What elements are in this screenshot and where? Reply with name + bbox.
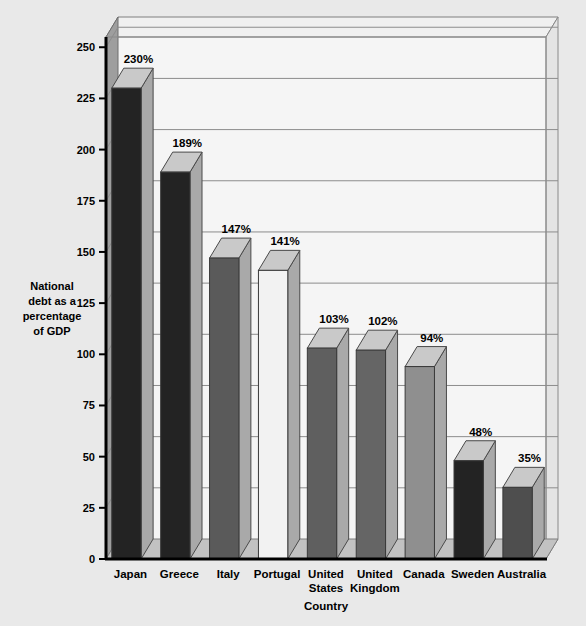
bar <box>405 347 446 559</box>
y-tick-label: 25 <box>83 502 95 514</box>
x-category-label: Greece <box>160 568 199 580</box>
bar-value-label: 189% <box>173 137 202 149</box>
bar <box>161 152 202 559</box>
x-category-label: United <box>308 568 344 580</box>
bar-value-label: 35% <box>518 452 541 464</box>
x-category-label: Canada <box>403 568 445 580</box>
bar <box>112 68 153 559</box>
y-tick-label: 225 <box>77 92 95 104</box>
y-tick-label: 0 <box>89 553 95 565</box>
y-axis-title-line: National <box>30 280 73 292</box>
bar-value-label: 230% <box>124 53 153 65</box>
y-axis-tick-labels: 0255075100125150175200225250 <box>77 41 95 565</box>
bar <box>210 238 251 559</box>
chart-container: CAN UNCLE SAM GO BANKRUPT Americans are … <box>0 0 586 626</box>
bar <box>258 250 299 559</box>
x-axis-category-labels: JapanGreeceItalyPortugalUnitedStatesUnit… <box>114 568 547 594</box>
x-category-label: United <box>357 568 393 580</box>
y-tick-label: 50 <box>83 451 95 463</box>
bar-value-label: 103% <box>319 313 348 325</box>
y-tick-label: 200 <box>77 144 95 156</box>
x-category-label: Portugal <box>254 568 301 580</box>
y-tick-label: 150 <box>77 246 95 258</box>
bar <box>307 328 348 559</box>
bar-value-label: 94% <box>420 332 443 344</box>
y-tick-label: 125 <box>77 297 95 309</box>
bar-value-label: 147% <box>222 223 251 235</box>
bar <box>503 467 544 559</box>
y-axis-title-line: of GDP <box>33 325 70 337</box>
bar-value-label: 48% <box>469 426 492 438</box>
y-tick-label: 175 <box>77 195 95 207</box>
x-category-label: Kingdom <box>350 582 400 594</box>
bar <box>356 330 397 559</box>
y-axis-title-line: percentage <box>23 310 82 322</box>
bar <box>454 441 495 559</box>
x-category-label: Australia <box>497 568 547 580</box>
bar-chart-3d: 0255075100125150175200225250 230%189%147… <box>0 0 586 626</box>
bar-value-label: 102% <box>368 315 397 327</box>
bar-value-label: 141% <box>270 235 299 247</box>
x-category-label: Sweden <box>451 568 494 580</box>
x-axis-title: Country <box>304 600 349 612</box>
y-tick-label: 100 <box>77 348 95 360</box>
x-category-label: Japan <box>114 568 147 580</box>
y-tick-label: 75 <box>83 399 95 411</box>
x-category-label: Italy <box>217 568 241 580</box>
y-axis-title-line: debt as a <box>28 295 77 307</box>
y-tick-label: 250 <box>77 41 95 53</box>
x-category-label: States <box>309 582 344 594</box>
y-axis-title: Nationaldebt as apercentageof GDP <box>23 280 82 337</box>
